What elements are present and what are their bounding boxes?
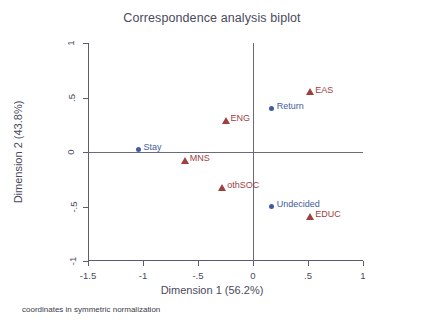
x-tick-mark	[88, 261, 89, 266]
y-tick-mark	[83, 152, 88, 153]
y-axis-title: Dimension 2 (43.8%)	[12, 101, 24, 204]
x-tick-label: 1	[360, 270, 365, 281]
y-tick-label: 1	[65, 40, 76, 45]
zero-line-vertical	[253, 43, 254, 261]
x-tick-mark	[363, 261, 364, 266]
x-tick-label: .5	[304, 270, 312, 281]
data-point-label: Stay	[144, 143, 162, 152]
data-point-label: othSOC	[227, 181, 259, 190]
zero-line-horizontal	[88, 152, 363, 153]
x-tick-mark	[308, 261, 309, 266]
chart-title: Correspondence analysis biplot	[0, 11, 424, 25]
y-tick-mark	[83, 98, 88, 99]
circle-marker-icon	[136, 147, 141, 152]
x-tick-mark	[198, 261, 199, 266]
x-axis-title: Dimension 1 (56.2%)	[0, 284, 424, 296]
x-tick-label: -.5	[192, 270, 203, 281]
y-tick-mark	[83, 261, 88, 262]
x-tick-label: -1	[139, 270, 147, 281]
y-tick-label: -1	[67, 257, 78, 265]
data-point-label: MNS	[190, 154, 210, 163]
triangle-marker-icon	[218, 184, 226, 191]
triangle-marker-icon	[222, 117, 230, 124]
triangle-marker-icon	[306, 88, 314, 95]
triangle-marker-icon	[306, 213, 314, 220]
triangle-marker-icon	[181, 157, 189, 164]
correspondence-analysis-biplot-figure: Correspondence analysis biplot -1.5-1-.5…	[0, 0, 424, 328]
plot-area: -1.5-1-.50.51 1.50-.5-1 StayReturnUndeci…	[88, 43, 363, 261]
circle-marker-icon	[269, 204, 274, 209]
x-axis-spine	[88, 260, 363, 261]
normalization-footnote: coordinates in symmetric normalization	[22, 305, 160, 314]
data-point-label: EDUC	[315, 210, 341, 219]
y-tick-mark	[83, 207, 88, 208]
x-tick-label: -1.5	[80, 270, 96, 281]
y-tick-mark	[83, 43, 88, 44]
x-tick-mark	[253, 261, 254, 266]
x-tick-label: 0	[250, 270, 255, 281]
circle-marker-icon	[269, 106, 274, 111]
data-point-label: Undecided	[277, 200, 320, 209]
y-tick-label: 0	[65, 149, 76, 154]
x-tick-mark	[143, 261, 144, 266]
data-point-label: Return	[277, 102, 304, 111]
y-tick-label: -.5	[68, 201, 79, 212]
data-point-label: ENG	[231, 114, 251, 123]
y-tick-label: .5	[66, 94, 77, 102]
data-point-label: EAS	[315, 86, 333, 95]
